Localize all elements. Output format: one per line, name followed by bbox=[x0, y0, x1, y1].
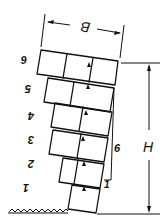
block-2 bbox=[59, 158, 104, 188]
dimension-h: H bbox=[97, 63, 160, 214]
lean-base-label: 1 bbox=[104, 179, 110, 190]
dimension-b-label: B bbox=[80, 19, 91, 36]
ground-hatching bbox=[8, 209, 68, 213]
block-labels: 1 2 3 4 5 6 bbox=[20, 54, 35, 194]
block-6 bbox=[37, 50, 118, 85]
block-label-6: 6 bbox=[20, 54, 27, 66]
block-label-3: 3 bbox=[28, 134, 34, 146]
block-label-1: 1 bbox=[23, 182, 29, 194]
leaning-block-stack-diagram: B H 6 1 1 2 3 4 5 6 bbox=[0, 0, 165, 222]
lean-reference-line bbox=[104, 88, 114, 180]
block-label-4: 4 bbox=[28, 110, 35, 122]
block-label-2: 2 bbox=[28, 158, 35, 170]
dimension-h-label: H bbox=[143, 139, 154, 155]
block-label-5: 5 bbox=[24, 83, 31, 95]
lean-label: 6 bbox=[114, 142, 121, 154]
